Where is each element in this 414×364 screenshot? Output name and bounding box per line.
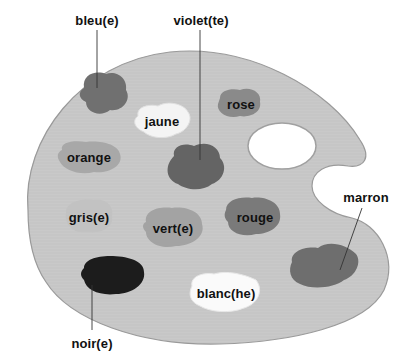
label-rose: rose	[227, 97, 255, 112]
label-noir: noir(e)	[71, 336, 112, 351]
label-gris: gris(e)	[69, 210, 109, 225]
label-marron: marron	[343, 190, 388, 205]
label-orange: orange	[67, 150, 111, 165]
label-rouge: rouge	[237, 210, 274, 225]
label-blanc: blanc(he)	[197, 286, 256, 301]
palette-illustration	[0, 0, 414, 364]
label-violet: violet(te)	[173, 13, 228, 28]
label-vert: vert(e)	[153, 221, 193, 236]
label-jaune: jaune	[145, 114, 179, 129]
paint-blob-noir	[81, 256, 144, 294]
palette-diagram: bleu(e) violet(te) rose jaune orange gri…	[0, 0, 414, 364]
label-bleu: bleu(e)	[75, 13, 118, 28]
palette-thumb-hole	[248, 123, 316, 169]
